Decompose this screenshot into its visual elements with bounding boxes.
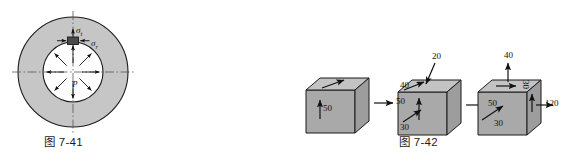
- cube-a-right-normal-label: 50: [396, 97, 405, 106]
- figure-left-caption: 图 7-41: [44, 133, 83, 149]
- radial-stress-label: σr: [91, 39, 98, 50]
- hoop-stress-label: σt: [76, 26, 82, 37]
- cube-c-front-face: [478, 92, 527, 135]
- cube-b-top-left-label: 40: [400, 81, 409, 90]
- cube-b-right-normal-label: 50: [488, 99, 497, 108]
- figure-right-caption: 图 7-42: [399, 133, 438, 149]
- cube-a: [306, 78, 393, 133]
- cube-b-front-shear-label: 30: [400, 123, 409, 132]
- cube-c-top-normal-label: 40: [504, 51, 513, 60]
- cube-c-right-normal-label: 120: [545, 99, 559, 108]
- cube-c-right-edge-label: 30: [521, 80, 530, 89]
- figures-canvas: [0, 0, 561, 165]
- stress-element-square: [68, 37, 79, 45]
- cube-b-top-normal-label: 20: [432, 52, 441, 61]
- cube-b: [398, 63, 485, 135]
- internal-pressure-label: p: [73, 78, 78, 87]
- cube-c-front-shear-label: 30: [494, 119, 503, 128]
- ring-cross-section: [12, 11, 134, 133]
- cube-a-front-shear-label: 50: [323, 104, 332, 113]
